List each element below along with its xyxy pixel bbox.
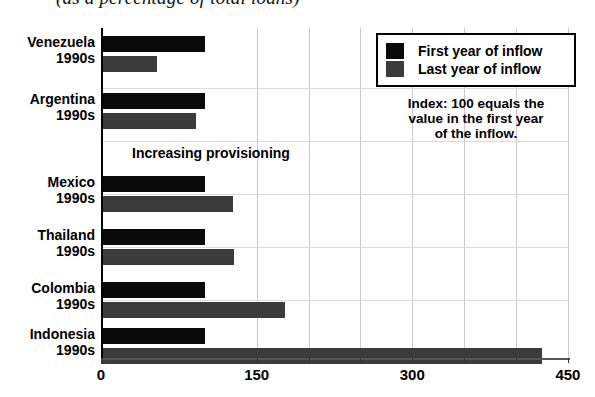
bar-first-colombia: [101, 282, 205, 298]
row-separator: [101, 141, 568, 142]
bar-last-colombia: [101, 302, 285, 318]
category-label-mexico: Mexico 1990s: [0, 174, 95, 206]
chart-title: (as a percentage of total loans): [0, 0, 400, 9]
xtick-label-450: 450: [555, 366, 580, 383]
category-period: 1990s: [0, 107, 95, 123]
xtick-minor-100: [309, 358, 310, 363]
xtick-label-0: 0: [97, 366, 105, 383]
category-period: 1990s: [0, 50, 95, 66]
xtick-350: [568, 358, 569, 363]
bar-first-mexico: [101, 176, 205, 192]
bar-last-indonesia: [101, 348, 542, 364]
chart-title-clip: (as a percentage of total loans): [0, 0, 400, 11]
xtick-0: [101, 358, 102, 363]
xtick-minor-200: [412, 358, 413, 363]
bar-last-argentina: [101, 113, 196, 129]
row-separator: [101, 194, 568, 195]
category-name: Thailand: [37, 227, 95, 243]
category-period: 1990s: [0, 243, 95, 259]
legend-swatch-last-year-icon: [386, 61, 404, 77]
gridline-150: [360, 28, 361, 358]
category-name: Indonesia: [30, 326, 95, 342]
legend-item-first-year: First year of inflow: [386, 43, 566, 59]
row-separator: [101, 247, 568, 248]
bar-last-venezuela: [101, 56, 157, 72]
index-note-line-1: Index: 100 equals the: [376, 96, 576, 111]
bar-last-mexico: [101, 196, 233, 212]
chart-legend: First year of inflow Last year of inflow: [376, 33, 576, 87]
xtick-300: [516, 358, 517, 363]
legend-swatch-first-year-icon: [386, 43, 404, 59]
xtick-label-300: 300: [400, 366, 425, 383]
gridline-100: [309, 28, 310, 358]
xtick-150-dup: [257, 358, 258, 363]
bar-first-argentina: [101, 93, 205, 109]
xtick-label-150: 150: [244, 366, 269, 383]
bar-first-thailand: [101, 229, 205, 245]
category-name: Venezuela: [27, 34, 95, 50]
category-period: 1990s: [0, 190, 95, 206]
category-label-colombia: Colombia 1990s: [0, 280, 95, 312]
category-label-argentina: Argentina 1990s: [0, 91, 95, 123]
bar-first-indonesia: [101, 328, 205, 344]
index-note: Index: 100 equals the value in the first…: [376, 96, 576, 141]
row-separator: [101, 300, 568, 301]
chart-container: (as a percentage of total loans): [0, 0, 595, 397]
index-note-line-3: of the inflow.: [376, 126, 576, 141]
category-name: Colombia: [31, 280, 95, 296]
category-name: Mexico: [48, 174, 95, 190]
xtick-minor-250: [464, 358, 465, 363]
legend-label-last-year: Last year of inflow: [418, 61, 541, 77]
category-label-venezuela: Venezuela 1990s: [0, 34, 95, 66]
category-label-indonesia: Indonesia 1990s: [0, 326, 95, 358]
bar-last-thailand: [101, 249, 234, 265]
index-note-line-2: value in the first year: [376, 111, 576, 126]
category-period: 1990s: [0, 296, 95, 312]
category-label-thailand: Thailand 1990s: [0, 227, 95, 259]
bar-first-venezuela: [101, 36, 205, 52]
annotation-increasing-provisioning: Increasing provisioning: [132, 145, 290, 161]
x-axis: [101, 358, 570, 360]
category-period: 1990s: [0, 342, 95, 358]
legend-label-first-year: First year of inflow: [418, 43, 542, 59]
xtick-minor-150b: [360, 358, 361, 363]
legend-item-last-year: Last year of inflow: [386, 61, 566, 77]
category-name: Argentina: [30, 91, 95, 107]
y-axis: [101, 28, 103, 358]
row-separator: [101, 88, 568, 89]
